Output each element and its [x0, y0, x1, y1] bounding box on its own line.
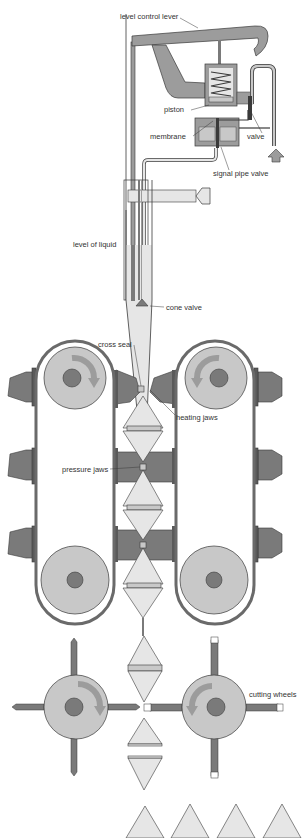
spring-rod	[218, 40, 221, 66]
diagram-canvas: level control lever piston membrane valv…	[0, 0, 303, 838]
right-jaw-blocks	[254, 368, 282, 562]
membrane	[216, 118, 219, 148]
forming-packages	[123, 396, 163, 618]
label-membrane: membrane	[150, 132, 186, 141]
feed-arrow-icon	[196, 188, 210, 204]
label-level-control-lever: level control lever	[120, 12, 179, 21]
cross-seal	[138, 386, 144, 392]
left-jaw-blocks	[8, 368, 36, 562]
label-cone-valve: cone valve	[166, 303, 202, 312]
label-valve: valve	[247, 132, 265, 141]
lever-arm	[152, 45, 205, 98]
finished-packages	[126, 804, 301, 838]
level-control-lever	[132, 26, 268, 56]
inlet-arrow-icon	[268, 149, 284, 162]
right-belt-conveyor	[176, 341, 254, 624]
left-belt-conveyor	[36, 341, 114, 624]
right-bottom-axle	[206, 572, 222, 588]
membrane-chamber-right	[220, 127, 236, 141]
label-level-of-liquid: level of liquid	[73, 240, 116, 249]
label-piston: piston	[164, 105, 184, 114]
label-signal-pipe-valve: signal pipe valve	[213, 169, 268, 178]
float-rod	[131, 42, 135, 272]
label-cutting-wheels: cutting wheels	[249, 690, 297, 699]
left-top-axle	[63, 369, 81, 387]
right-top-axle	[210, 369, 228, 387]
left-bottom-axle	[67, 572, 83, 588]
label-cross-seal: cross seal	[98, 340, 132, 349]
piston	[209, 97, 233, 102]
label-pressure-jaws: pressure jaws	[62, 465, 109, 474]
signal-pipe	[144, 148, 216, 300]
package-being-cut	[128, 636, 162, 790]
membrane-chamber-left	[199, 127, 215, 141]
label-heating-jaws: heating jaws	[176, 413, 218, 422]
